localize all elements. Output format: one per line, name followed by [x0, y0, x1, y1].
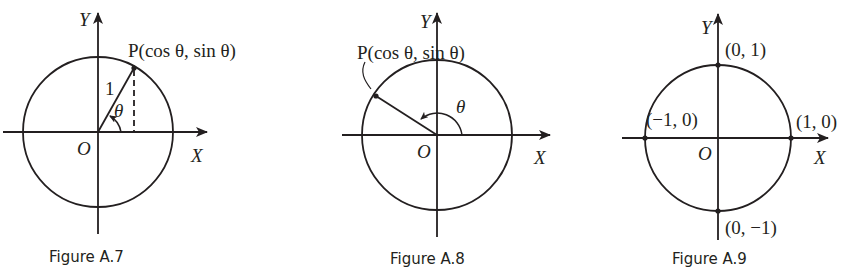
angle-label: θ	[114, 100, 123, 121]
x-axis-label: X	[813, 147, 827, 168]
x-axis-label: X	[190, 145, 204, 166]
y-axis-label: Y	[79, 9, 92, 30]
y-axis-label: Y	[701, 17, 714, 38]
point-label-0-1: (0, 1)	[725, 39, 766, 61]
origin-label: O	[698, 143, 712, 164]
figure-caption: Figure A.7	[49, 248, 124, 266]
point-label-neg1-0: (−1, 0)	[646, 109, 698, 131]
origin-label: O	[77, 138, 91, 159]
point-p	[131, 65, 136, 70]
radius-label: 1	[105, 78, 115, 99]
point-0-neg1	[715, 208, 720, 213]
unit-circle-figures: Y X O P(cos θ, sin θ) 1 θ Figure A.7 Y X…	[0, 0, 847, 272]
point-p-label: P(cos θ, sin θ)	[357, 42, 465, 64]
point-label-1-0: (1, 0)	[796, 111, 837, 133]
y-axis-label: Y	[420, 11, 433, 32]
point-p-label: P(cos θ, sin θ)	[128, 40, 236, 62]
leader-line	[363, 62, 371, 89]
origin-label: O	[417, 141, 431, 162]
angle-label: θ	[456, 96, 465, 117]
point-label-0-neg1: (0, −1)	[725, 217, 777, 239]
point-p	[373, 93, 378, 98]
point-0-1	[715, 62, 720, 67]
figure-caption: Figure A.9	[672, 250, 747, 268]
x-axis-label: X	[533, 147, 547, 168]
figure-caption: Figure A.8	[390, 250, 465, 268]
point-1-0	[788, 135, 793, 140]
point-neg1-0	[642, 135, 647, 140]
